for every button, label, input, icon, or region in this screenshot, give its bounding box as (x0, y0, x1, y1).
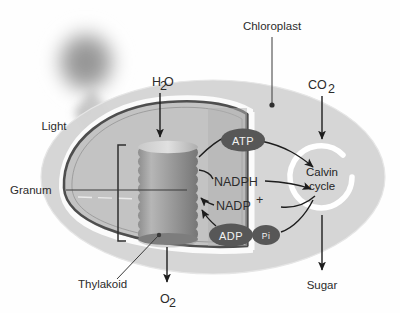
granum-top (138, 141, 198, 153)
calvin-cycle-line2: cycle (309, 180, 335, 192)
nadph-label: NADPH (214, 175, 258, 189)
atp-oval: ATP (221, 129, 265, 152)
adp-oval: ADP (209, 224, 253, 247)
chloroplast-label: Chloroplast (243, 20, 302, 32)
calvin-cycle-line1: Calvin (306, 166, 338, 178)
adp-label: ADP (219, 230, 243, 242)
h2o-text-tail: O (164, 75, 174, 89)
photosynthesis-diagram-svg: ATP ADP Pi NADPH NADP + Calvin cycle Lig… (0, 0, 400, 313)
light-orb (46, 20, 126, 104)
pi-label: Pi (262, 231, 270, 241)
light-label: Light (42, 120, 68, 132)
sugar-label: Sugar (307, 279, 338, 291)
diagram-canvas: ATP ADP Pi NADPH NADP + Calvin cycle Lig… (0, 0, 400, 313)
granum-stack (138, 141, 198, 248)
nadp-label: NADP (216, 199, 251, 213)
o2-subscript: 2 (169, 296, 176, 310)
granum-label: Granum (10, 184, 52, 196)
co2-subscript: 2 (328, 82, 335, 96)
thylakoid-discs (138, 141, 198, 245)
chloroplast-leader-dot (269, 102, 274, 107)
co2-label: CO 2 (308, 78, 335, 96)
nadp-superscript: + (256, 193, 263, 207)
thylakoid-leader-dot (157, 233, 161, 237)
atp-label: ATP (232, 135, 254, 147)
thylakoid-label: Thylakoid (78, 278, 127, 290)
o2-label: O 2 (160, 292, 176, 310)
granum-bottom (138, 233, 198, 245)
co2-text: CO (308, 78, 327, 92)
pi-oval: Pi (252, 225, 280, 245)
